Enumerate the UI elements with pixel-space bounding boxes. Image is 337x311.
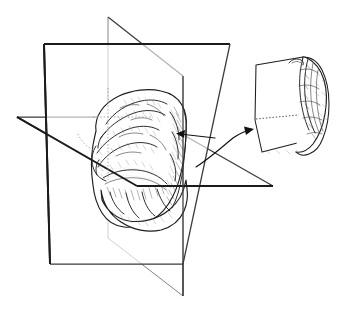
figure-canvas — [0, 0, 337, 311]
extracted-coronal-slab — [255, 57, 329, 155]
brain-planes-diagram — [0, 0, 337, 311]
